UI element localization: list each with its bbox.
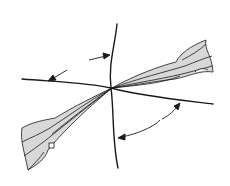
splice-diagram bbox=[0, 0, 230, 186]
fiber-bundle-upper-right bbox=[112, 40, 213, 88]
fiber-bundle-lower-left bbox=[21, 88, 112, 170]
horizontal-cord bbox=[22, 79, 213, 104]
vertical-cord bbox=[110, 24, 118, 168]
arrow-curved-double bbox=[121, 105, 178, 137]
